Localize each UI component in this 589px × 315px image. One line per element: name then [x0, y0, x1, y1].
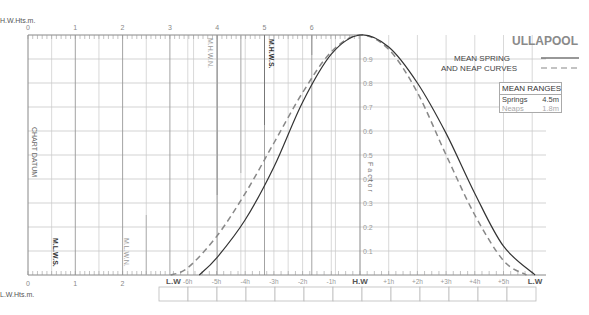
hw-height-tick-label: 6 — [310, 24, 314, 31]
tidal-curve-chart: 0123456012H.W.Hts.m.L.W.Hts.m.M.H.W.S.M.… — [0, 0, 589, 315]
mlws-label: M.L.W.S. — [52, 238, 59, 267]
hour-label: +1h — [383, 278, 394, 285]
factor-axis-label: Factor — [367, 162, 374, 194]
time-entry-box[interactable] — [420, 287, 449, 301]
hw-height-tick-label: 0 — [26, 24, 30, 31]
lw-height-tick-label: 2 — [121, 280, 125, 287]
hour-label: L.W — [166, 277, 181, 286]
hw-height-tick-label: 3 — [168, 24, 172, 31]
hour-label: +2h — [412, 278, 423, 285]
mean-ranges-header: MEAN RANGES — [500, 83, 561, 95]
hour-label: H.W — [352, 277, 368, 286]
factor-tick-label: 0.5 — [363, 152, 373, 159]
hw-height-tick-label: 5 — [263, 24, 267, 31]
time-entry-box[interactable] — [217, 287, 246, 301]
port-title: ULLAPOOL — [512, 34, 578, 48]
lw-height-tick-label: 1 — [73, 280, 77, 287]
mhwn-label: M.H.W.N. — [207, 38, 214, 68]
factor-tick-label: 0.6 — [363, 128, 373, 135]
factor-tick-label: 0.2 — [363, 224, 373, 231]
time-entry-box[interactable] — [188, 287, 217, 301]
time-entry-box[interactable] — [246, 287, 275, 301]
hour-label: -6h — [183, 278, 193, 285]
legend-neap-label: AND NEAP CURVES — [441, 64, 517, 73]
hw-height-tick-label: 4 — [215, 24, 219, 31]
hour-label: -3h — [269, 278, 279, 285]
hw-heights-axis-label: H.W.Hts.m. — [0, 17, 35, 24]
lw-heights-axis-label: L.W.Hts.m. — [0, 291, 34, 298]
time-entry-box[interactable] — [275, 287, 304, 301]
time-entry-box[interactable] — [478, 287, 507, 301]
time-entry-box[interactable] — [449, 287, 478, 301]
neaps-row: Neaps 1.8m — [500, 104, 561, 113]
hour-label: -2h — [298, 278, 308, 285]
factor-tick-label: 0.9 — [363, 56, 373, 63]
factor-tick-label: 0.7 — [363, 104, 373, 111]
mean-ranges-box: MEAN RANGES Springs 4.5m Neaps 1.8m — [499, 82, 562, 113]
hour-label: +3h — [441, 278, 452, 285]
factor-tick-label: 0.3 — [363, 200, 373, 207]
time-entry-box[interactable] — [333, 287, 362, 301]
springs-value: 4.5m — [542, 95, 559, 104]
hw-height-tick-label: 1 — [73, 24, 77, 31]
time-entry-box[interactable] — [391, 287, 420, 301]
hour-label: -1h — [327, 278, 337, 285]
time-entry-box[interactable] — [507, 287, 536, 301]
hw-height-tick-label: 2 — [121, 24, 125, 31]
factor-tick-label: 0.8 — [363, 80, 373, 87]
neaps-label: Neaps — [502, 104, 524, 113]
legend-spring-label: MEAN SPRING — [454, 54, 510, 63]
springs-label: Springs — [502, 95, 527, 104]
hour-label: +4h — [469, 278, 480, 285]
hour-label: -4h — [240, 278, 250, 285]
hour-label: +5h — [498, 278, 509, 285]
time-entry-box[interactable] — [362, 287, 391, 301]
neaps-value: 1.8m — [542, 104, 559, 113]
springs-row: Springs 4.5m — [500, 95, 561, 104]
factor-tick-label: 0.1 — [363, 248, 373, 255]
hour-label: -5h — [212, 278, 222, 285]
time-entry-box[interactable] — [304, 287, 333, 301]
time-entry-box[interactable] — [159, 287, 188, 301]
mlwn-label: M.L.W.N. — [123, 238, 130, 267]
mhws-label: M.H.W.S. — [268, 39, 275, 69]
hour-label: L.W — [528, 277, 543, 286]
chart-datum-label: CHART DATUM — [31, 127, 38, 177]
lw-height-tick-label: 0 — [26, 280, 30, 287]
